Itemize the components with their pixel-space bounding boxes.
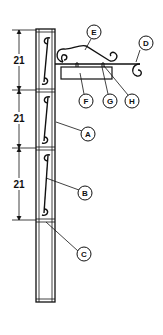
svg-text:G: G: [107, 97, 113, 106]
callout-a: A: [81, 127, 95, 141]
sign-post-diagram: 21 21 21: [0, 0, 163, 335]
svg-text:D: D: [143, 39, 149, 48]
svg-text:C: C: [81, 250, 87, 259]
dimension-label-3: 21: [13, 179, 25, 190]
callout-d: D: [139, 36, 153, 50]
callout-e: E: [87, 25, 101, 39]
scroll-infill: [42, 38, 50, 216]
svg-text:F: F: [84, 97, 89, 106]
dimension-label-1: 21: [13, 55, 25, 66]
svg-text:B: B: [82, 189, 88, 198]
callout-c: C: [77, 247, 91, 261]
callout-b: B: [78, 186, 92, 200]
callout-f: F: [79, 94, 93, 108]
svg-text:H: H: [129, 97, 135, 106]
dimension-label-2: 21: [13, 113, 25, 124]
callout-g: G: [103, 94, 117, 108]
svg-text:A: A: [85, 130, 91, 139]
callout-h: H: [125, 94, 139, 108]
svg-text:E: E: [91, 28, 97, 37]
